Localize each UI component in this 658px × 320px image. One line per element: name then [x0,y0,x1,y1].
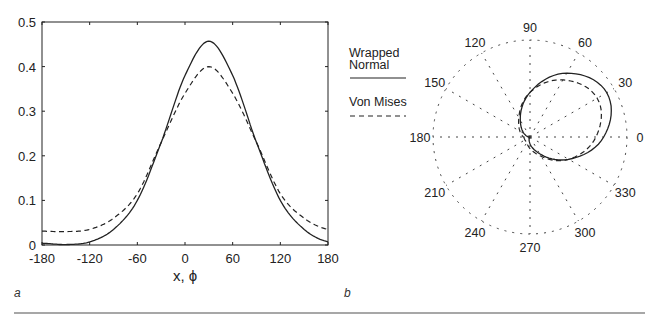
polar-angle-label: 270 [520,241,541,255]
x-tick-labels: -180-120-60060120180 [29,251,339,266]
polar-spoke [482,137,531,221]
polar-spoke [530,89,614,138]
polar-angle-label: 0 [637,131,644,145]
y-tick-label: 0.1 [18,193,36,208]
axis-ticks [42,22,328,245]
x-tick-label: 120 [269,251,291,266]
polar-angle-label: 210 [424,186,445,200]
polar-angle-label: 240 [465,226,486,240]
x-tick-label: 60 [225,251,239,266]
polar-spoke [446,89,530,138]
x-tick-label: 180 [317,251,339,266]
polar-angle-label: 330 [615,186,636,200]
figure: 00.10.20.30.40.5 -180-120-60060120180 x,… [0,0,658,320]
x-tick-label: -60 [128,251,147,266]
polar-spoke [446,137,530,186]
polar-spoke [530,137,614,186]
y-tick-label: 0.4 [18,60,36,75]
x-tick-label: -180 [29,251,55,266]
polar-angle-label: 60 [578,36,592,50]
polar-von-mises-curve [519,80,602,161]
polar-angle-label: 180 [410,131,431,145]
polar-spoke [482,53,531,137]
legend-von-mises-label: Von Mises [349,95,407,109]
panel-label-b: b [344,286,351,300]
panel-label-a: a [14,286,21,300]
x-tick-label: -120 [77,251,103,266]
polar-angle-labels: 0306090120150180210240270300330 [410,21,644,255]
polar-spoke [530,53,579,137]
y-tick-label: 0.5 [18,15,36,30]
y-tick-labels: 00.10.20.30.40.5 [18,15,36,253]
x-tick-label: 0 [181,251,188,266]
von-mises-curve [42,67,328,232]
polar-spoke [530,137,579,221]
y-tick-label: 0.3 [18,104,36,119]
polar-angle-label: 150 [424,76,445,90]
polar-angle-label: 90 [523,21,537,35]
y-tick-label: 0.2 [18,149,36,164]
plot-frame [42,22,328,245]
polar-angle-label: 30 [618,76,632,90]
legend-wrapped-label-2: Normal [349,58,389,72]
cartesian-chart: 00.10.20.30.40.5 -180-120-60060120180 x,… [14,15,339,300]
legend: Wrapped Normal Von Mises [349,46,407,116]
polar-angle-label: 300 [575,226,596,240]
polar-angle-label: 120 [465,36,486,50]
x-axis-label: x, ϕ [173,267,197,284]
wrapped-normal-curve [42,41,328,244]
